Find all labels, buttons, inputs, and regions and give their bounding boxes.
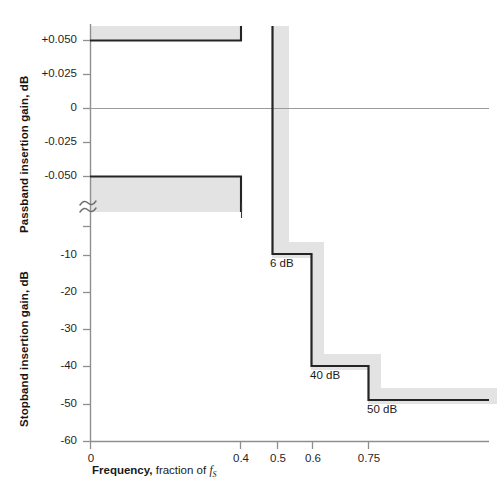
y-tick-label-minus-60: -60: [17, 434, 77, 446]
stopband-mask-outline: [273, 26, 490, 400]
y-tick-label-minus-20: -20: [17, 285, 77, 297]
x-tick-label-075: 0.75: [347, 452, 391, 464]
y-tick-label-minus-30: -30: [17, 322, 77, 334]
y-tick-label-zero: 0: [17, 101, 77, 113]
y-ticks-bottom: [83, 256, 90, 442]
y-tick-label-minus-0025: -0.025: [17, 135, 77, 147]
x-axis-title-subscript-s: S: [213, 470, 217, 479]
x-axis-title: Frequency, fraction of fS: [92, 464, 217, 479]
y-tick-label-plus-0050: +0.050: [17, 33, 77, 45]
stopband-step-label-40db: 40 dB: [310, 369, 340, 381]
y-tick-label-minus-10: -10: [17, 248, 77, 260]
passband-lower-mask-fill: [90, 177, 242, 212]
stopband-step-label-50db: 50 dB: [367, 403, 397, 415]
y-tick-label-plus-0025: +0.025: [17, 67, 77, 79]
stopband-step-label-6db: 6 dB: [270, 257, 294, 269]
y-ticks-top: [83, 41, 90, 227]
x-tick-label-0: 0: [69, 452, 113, 464]
y-tick-label-minus-0050: -0.050: [17, 169, 77, 181]
filter-response-mask-chart: Passband insertion gain, dB Stopband ins…: [0, 0, 497, 497]
passband-upper-mask-fill: [90, 26, 242, 41]
stopband-mask-fill: [272, 26, 497, 404]
x-tick-label-06: 0.6: [291, 452, 335, 464]
y-tick-label-minus-40: -40: [17, 359, 77, 371]
x-axis-title-rest: fraction of: [153, 464, 210, 476]
y-axis-title-passband: Passband insertion gain, dB: [18, 76, 30, 233]
x-ticks: [91, 442, 369, 449]
y-tick-label-minus-50: -50: [17, 397, 77, 409]
x-axis-title-bold: Frequency,: [92, 464, 153, 476]
